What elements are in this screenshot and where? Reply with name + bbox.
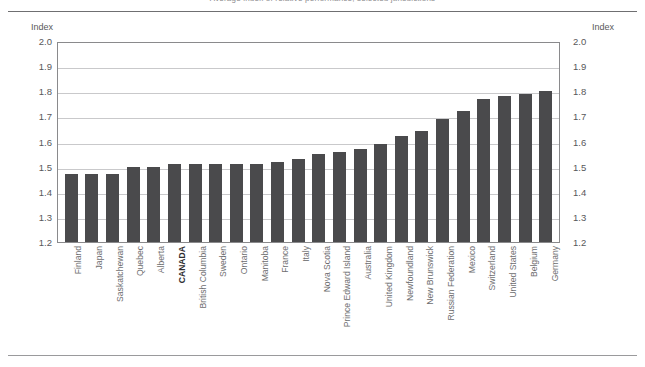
- y-axis-tick-right: 1.7: [573, 111, 603, 122]
- bar: [312, 154, 325, 242]
- x-axis-label: Australia: [354, 246, 367, 351]
- x-axis-label: New Brunswick: [416, 246, 429, 351]
- x-axis-label-text: Russian Federation: [447, 246, 456, 321]
- bar: [415, 131, 428, 242]
- x-axis-label-text: Belgium: [530, 246, 539, 277]
- x-axis-label: United States: [499, 246, 512, 351]
- y-axis-caption-left: Index: [31, 22, 53, 32]
- y-axis-tick-right: 1.4: [573, 187, 603, 198]
- bar: [354, 149, 367, 242]
- x-axis-label-text: Switzerland: [488, 246, 497, 290]
- bar: [292, 159, 305, 242]
- y-axis-tick-left: 1.7: [22, 111, 52, 122]
- y-axis-tick-right: 1.3: [573, 212, 603, 223]
- x-axis-label-text: Nova Scotia: [323, 246, 332, 292]
- bar: [271, 162, 284, 242]
- bar: [127, 167, 140, 242]
- y-axis-tick-right: 1.5: [573, 162, 603, 173]
- x-axis-label: Germany: [540, 246, 553, 351]
- x-axis-label: Finland: [64, 246, 77, 351]
- y-axis-tick-left: 1.9: [22, 61, 52, 72]
- x-axis-label: Alberta: [147, 246, 160, 351]
- x-axis-label: Mexico: [457, 246, 470, 351]
- x-axis-label-text: British Columbia: [199, 246, 208, 309]
- y-axis-tick-right: 1.8: [573, 86, 603, 97]
- x-axis-label: Italy: [292, 246, 305, 351]
- bottom-rule: [8, 355, 637, 356]
- x-axis-label-text: France: [281, 246, 290, 273]
- y-axis-caption-right: Index: [592, 22, 614, 32]
- bar: [209, 164, 222, 242]
- x-axis-label-text: United Kingdom: [385, 246, 394, 307]
- x-axis-label: Manitoba: [250, 246, 263, 351]
- x-axis-label-text: Ontario: [240, 246, 249, 274]
- x-axis-label-text: Quebec: [136, 246, 145, 276]
- x-axis-label-text: Saskatchewan: [116, 246, 125, 302]
- bar: [539, 91, 552, 242]
- x-axis-label: Nova Scotia: [312, 246, 325, 351]
- y-axis-tick-left: 1.5: [22, 162, 52, 173]
- x-axis-label: Saskatchewan: [105, 246, 118, 351]
- bar: [168, 164, 181, 242]
- x-axis-label-text: New Brunswick: [426, 246, 435, 305]
- y-axis-tick-left: 1.2: [22, 237, 52, 248]
- bar-series: [58, 43, 559, 242]
- x-axis-label-text: Sweden: [219, 246, 228, 277]
- y-axis-tick-right: 1.9: [573, 61, 603, 72]
- bar: [250, 164, 263, 242]
- x-axis-label: Japan: [85, 246, 98, 351]
- x-axis-label: Prince Edward Island: [333, 246, 346, 351]
- bar: [395, 136, 408, 242]
- x-axis-label: Quebec: [126, 246, 139, 351]
- x-axis-label: Sweden: [209, 246, 222, 351]
- x-axis-label: Ontario: [229, 246, 242, 351]
- bar: [333, 152, 346, 242]
- x-axis-label: British Columbia: [188, 246, 201, 351]
- x-axis-label-text: Finland: [74, 246, 83, 274]
- bar: [436, 119, 449, 242]
- y-axis-tick-left: 1.8: [22, 86, 52, 97]
- bar: [65, 174, 78, 242]
- y-axis-tick-left: 2.0: [22, 36, 52, 47]
- bar: [230, 164, 243, 242]
- x-axis-label: CANADA: [167, 246, 180, 351]
- top-rule: [8, 11, 637, 12]
- x-axis-label-text: Manitoba: [261, 246, 270, 281]
- x-axis-label-text: CANADA: [178, 246, 187, 283]
- bar: [457, 111, 470, 242]
- plot-area: [57, 42, 560, 243]
- x-axis-label-text: Australia: [364, 246, 373, 279]
- y-axis-tick-right: 2.0: [573, 36, 603, 47]
- bar: [106, 174, 119, 242]
- clipped-header-text: Average index of relative performance, s…: [0, 0, 645, 3]
- bar: [189, 164, 202, 242]
- x-axis-label: Russian Federation: [437, 246, 450, 351]
- bar: [498, 96, 511, 242]
- bar: [374, 144, 387, 242]
- bar: [477, 99, 490, 242]
- x-axis-label-text: Newfoundland: [406, 246, 415, 301]
- x-axis-label-text: Germany: [551, 246, 560, 281]
- x-axis-label-text: United States: [509, 246, 518, 298]
- x-axis-label-text: Japan: [95, 246, 104, 269]
- bar: [85, 174, 98, 242]
- x-axis-label-text: Alberta: [157, 246, 166, 273]
- x-axis-label: United Kingdom: [374, 246, 387, 351]
- x-axis-label: Newfoundland: [395, 246, 408, 351]
- y-axis-tick-left: 1.6: [22, 137, 52, 148]
- x-axis-label-text: Prince Edward Island: [343, 246, 352, 327]
- x-axis-label: Switzerland: [478, 246, 491, 351]
- y-axis-tick-left: 1.3: [22, 212, 52, 223]
- x-axis-label: Belgium: [519, 246, 532, 351]
- y-axis-tick-right: 1.6: [573, 137, 603, 148]
- x-axis-label: France: [271, 246, 284, 351]
- y-axis-tick-left: 1.4: [22, 187, 52, 198]
- bar: [519, 94, 532, 242]
- x-axis-labels: FinlandJapanSaskatchewanQuebecAlbertaCAN…: [57, 246, 560, 351]
- bar: [147, 167, 160, 242]
- figure-root: Average index of relative performance, s…: [0, 0, 645, 367]
- x-axis-label-text: Italy: [302, 246, 311, 262]
- y-axis-tick-right: 1.2: [573, 237, 603, 248]
- x-axis-label-text: Mexico: [468, 246, 477, 273]
